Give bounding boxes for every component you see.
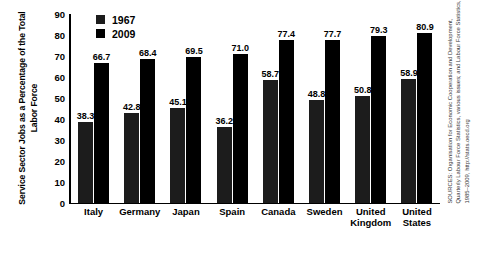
y-tick-label: 60 — [54, 71, 65, 82]
chart-legend: 19672009 — [96, 13, 135, 41]
legend-item-1967: 1967 — [96, 13, 135, 26]
legend-swatch-icon — [96, 15, 105, 24]
bar-1967-canada: 58.7 — [263, 80, 278, 203]
bar-value-label: 50.8 — [353, 85, 372, 95]
y-tick-label: 0 — [60, 197, 65, 208]
bar-value-label: 36.2 — [215, 116, 234, 126]
bar-value-label: 79.3 — [369, 25, 388, 35]
bar-value-label: 58.9 — [400, 68, 419, 78]
bar-group: 42.868.4 — [117, 14, 163, 203]
bar-value-label: 42.8 — [123, 102, 142, 112]
bar-1967-united-states: 58.9 — [401, 79, 416, 202]
category-label: Sweden — [301, 206, 347, 228]
bar-1967-united-kingdom: 50.8 — [355, 96, 370, 202]
y-tick-label: 20 — [54, 155, 65, 166]
y-tick-label: 30 — [54, 134, 65, 145]
bar-value-label: 77.4 — [277, 29, 296, 39]
bar-value-label: 58.7 — [261, 69, 280, 79]
bar-value-label: 66.7 — [92, 52, 111, 62]
y-axis-title: Service Sector Jobs as a Percentage of t… — [17, 3, 49, 213]
category-label: Spain — [209, 206, 255, 228]
legend-label: 1967 — [112, 14, 135, 26]
bar-group: 58.980.9 — [394, 14, 440, 203]
legend-swatch-icon — [96, 29, 105, 38]
y-tick-label: 10 — [54, 176, 65, 187]
bar-value-label: 77.7 — [323, 29, 342, 39]
x-axis-line — [69, 203, 440, 205]
bar-1967-japan: 45.1 — [170, 108, 185, 202]
bar-chart: Service Sector Jobs as a Percentage of t… — [0, 0, 502, 254]
bar-value-label: 71.0 — [231, 43, 250, 53]
source-line: 1985–2009, http://stats.oecd.org — [463, 0, 471, 204]
bar-2009-united-states: 80.9 — [417, 33, 432, 202]
bar-group: 50.879.3 — [348, 14, 394, 203]
bar-2009-japan: 69.5 — [186, 57, 201, 203]
bar-groups: 38.366.742.868.445.169.536.271.058.777.4… — [71, 14, 441, 203]
y-tick-label: 40 — [54, 113, 65, 124]
category-label: Canada — [255, 206, 301, 228]
bar-value-label: 80.9 — [416, 22, 435, 32]
x-axis-category-labels: ItalyGermanyJapanSpainCanadaSwedenUnited… — [71, 206, 441, 228]
category-label: Italy — [71, 206, 117, 228]
bar-2009-united-kingdom: 79.3 — [371, 36, 386, 202]
category-label: United Kingdom — [348, 206, 394, 228]
bar-value-label: 68.4 — [139, 48, 158, 58]
category-label: United States — [394, 206, 440, 228]
legend-item-2009: 2009 — [96, 27, 135, 40]
source-line: Quarterly Labour Force Statistics, vario… — [455, 0, 463, 204]
bar-1967-sweden: 48.8 — [309, 100, 324, 202]
source-note: SOURCES: Organisation for Economic Coope… — [446, 0, 471, 204]
bar-value-label: 38.3 — [76, 111, 95, 121]
bar-1967-spain: 36.2 — [217, 127, 232, 203]
bar-group: 38.366.7 — [71, 14, 117, 203]
bar-group: 36.271.0 — [209, 14, 255, 203]
bar-value-label: 48.8 — [307, 89, 326, 99]
bar-value-label: 69.5 — [185, 46, 204, 56]
category-label: Germany — [117, 206, 163, 228]
y-tick-label: 70 — [54, 50, 65, 61]
bar-value-label: 45.1 — [169, 97, 188, 107]
y-tick-label: 80 — [54, 29, 65, 40]
source-line: SOURCES: Organisation for Economic Coope… — [446, 0, 454, 204]
bar-2009-italy: 66.7 — [94, 63, 109, 203]
bar-2009-sweden: 77.7 — [325, 40, 340, 203]
bar-2009-germany: 68.4 — [140, 59, 155, 202]
y-tick-label: 90 — [54, 9, 65, 20]
bar-group: 58.777.4 — [255, 14, 301, 203]
bar-1967-germany: 42.8 — [124, 113, 139, 203]
bar-group: 48.877.7 — [301, 14, 347, 203]
category-label: Japan — [163, 206, 209, 228]
plot-area: 9080706050403020100 38.366.742.868.445.1… — [69, 14, 440, 204]
y-tick-label: 50 — [54, 92, 65, 103]
bar-group: 45.169.5 — [163, 14, 209, 203]
bar-2009-canada: 77.4 — [279, 40, 294, 202]
bar-2009-spain: 71.0 — [233, 54, 248, 203]
legend-label: 2009 — [112, 28, 135, 40]
bar-1967-italy: 38.3 — [78, 122, 93, 202]
